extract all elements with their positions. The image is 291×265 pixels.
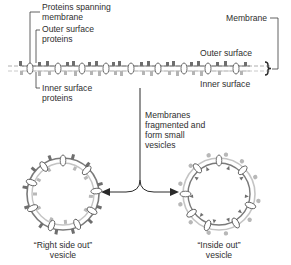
label-line: vesicle <box>169 250 269 260</box>
flat-membrane <box>8 61 272 76</box>
label-line: proteins <box>42 93 92 103</box>
label-inner-surface-proteins: Inner surface proteins <box>42 83 92 103</box>
label-proteins-spanning: Proteins spanning membrane <box>42 2 111 22</box>
label-outer-surface: Outer surface <box>200 48 252 58</box>
label-process: Membranes fragmented and form small vesi… <box>145 110 205 150</box>
label-line: proteins <box>42 34 94 44</box>
label-line: form small <box>145 130 205 140</box>
label-outer-surface-proteins: Outer surface proteins <box>42 24 94 44</box>
label-line: membrane <box>42 12 111 22</box>
label-inside-out-vesicle: “Inside out” vesicle <box>169 240 269 260</box>
right-side-out-vesicle <box>22 154 103 235</box>
inside-out-vesicle <box>178 152 261 236</box>
label-line: vesicles <box>145 140 205 150</box>
arrow-head-left <box>101 188 110 196</box>
label-line: Membranes <box>145 110 205 120</box>
label-line: Inner surface <box>42 83 92 93</box>
arrow-head-right <box>170 188 179 196</box>
label-line: “Inside out” <box>169 240 269 250</box>
label-line: fragmented and <box>145 120 205 130</box>
label-line: Outer surface <box>42 24 94 34</box>
label-inner-surface: Inner surface <box>200 79 250 89</box>
label-right-side-out-vesicle: “Right side out” vesicle <box>13 240 113 260</box>
label-membrane: Membrane <box>226 13 267 23</box>
label-line: vesicle <box>13 250 113 260</box>
label-line: Proteins spanning <box>42 2 111 12</box>
label-line: “Right side out” <box>13 240 113 250</box>
